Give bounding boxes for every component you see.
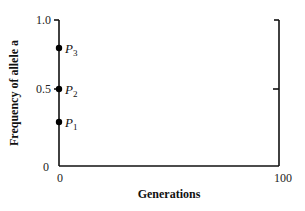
point-p1 — [56, 119, 62, 125]
plot-frame — [54, 20, 279, 166]
y-axis-title: Frequency of allele a — [7, 40, 21, 146]
label-p3: P3 — [64, 41, 78, 58]
label-p1: P1 — [64, 115, 77, 132]
y-tick-label-0: 0 — [43, 160, 49, 174]
x-axis-title: Generations — [138, 187, 201, 201]
allele-frequency-chart: 1.0 0.5 0 0 100 Generations Frequency of… — [0, 0, 305, 211]
point-p3 — [56, 45, 62, 51]
label-p2: P2 — [64, 82, 77, 99]
y-tick-label-1: 1.0 — [36, 13, 51, 27]
x-tick-label-0: 0 — [57, 171, 63, 185]
point-p2 — [56, 86, 62, 92]
y-tick-label-05: 0.5 — [36, 82, 51, 96]
x-tick-label-100: 100 — [274, 171, 292, 185]
